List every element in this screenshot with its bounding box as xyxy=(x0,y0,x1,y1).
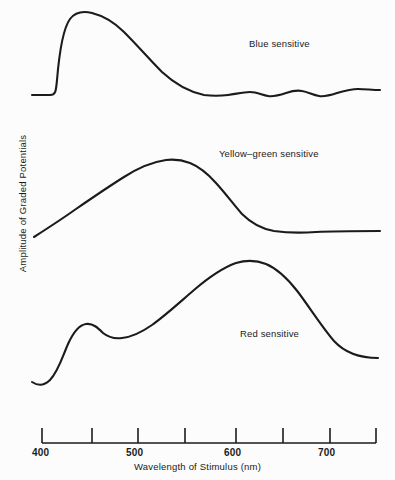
x-tick-label-500: 500 xyxy=(126,447,143,458)
chart-figure: Blue sensitive Yellow–green sensitive Re… xyxy=(0,0,395,480)
curve-label-red-sensitive: Red sensitive xyxy=(240,328,299,339)
x-tick-label-700: 700 xyxy=(318,447,335,458)
x-tick-label-600: 600 xyxy=(224,447,241,458)
curve-label-blue-sensitive: Blue sensitive xyxy=(249,38,310,49)
spectral-curves-svg xyxy=(0,0,395,480)
curve-red-sensitive xyxy=(32,261,378,385)
curve-label-yellow-green-sensitive: Yellow–green sensitive xyxy=(219,148,319,159)
x-tick-label-400: 400 xyxy=(32,447,49,458)
x-axis-title: Wavelength of Stimulus (nm) xyxy=(0,461,395,472)
curve-blue-sensitive xyxy=(32,12,380,96)
y-axis-title: Amplitude of Graded Potentials xyxy=(17,99,28,309)
curve-yellow-green-sensitive xyxy=(34,160,380,237)
